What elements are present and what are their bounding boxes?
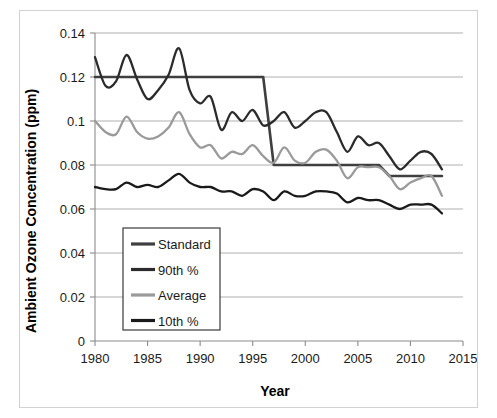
y-axis-tick-labels: 00.020.040.060.080.10.120.14 bbox=[60, 26, 85, 349]
chart-legend[interactable]: Standard90th %Average10th % bbox=[123, 228, 220, 330]
y-tick-label: 0.04 bbox=[60, 246, 85, 261]
x-tick-label: 2005 bbox=[343, 351, 372, 366]
legend-label-10th[interactable]: 10th % bbox=[158, 314, 199, 329]
ozone-line-chart: 00.020.040.060.080.10.120.14 19801985199… bbox=[20, 11, 477, 407]
series-line-90th bbox=[95, 48, 442, 169]
x-axis-tick-labels: 19801985199019952000200520102015 bbox=[81, 351, 477, 366]
y-tick-label: 0 bbox=[78, 334, 85, 349]
y-tick-label: 0.14 bbox=[60, 26, 85, 41]
data-series bbox=[95, 48, 442, 213]
legend-label-average[interactable]: Average bbox=[158, 288, 206, 303]
x-tick-label: 1985 bbox=[133, 351, 162, 366]
chart-frame: 00.020.040.060.080.10.120.14 19801985199… bbox=[19, 10, 478, 408]
clipped-header-text bbox=[0, 0, 497, 7]
x-tick-label: 2015 bbox=[449, 351, 477, 366]
x-tick-label: 1995 bbox=[238, 351, 267, 366]
legend-label-standard[interactable]: Standard bbox=[158, 237, 211, 252]
x-tick-label: 1980 bbox=[81, 351, 110, 366]
y-tick-label: 0.12 bbox=[60, 70, 85, 85]
figure-root: 00.020.040.060.080.10.120.14 19801985199… bbox=[0, 0, 497, 418]
x-tick-label: 1990 bbox=[186, 351, 215, 366]
x-tick-label: 2000 bbox=[291, 351, 320, 366]
x-tick-label: 2010 bbox=[396, 351, 425, 366]
y-axis-title: Ambient Ozone Concentration (ppm) bbox=[23, 89, 39, 333]
y-tick-label: 0.08 bbox=[60, 158, 85, 173]
legend-label-90th[interactable]: 90th % bbox=[158, 263, 199, 278]
y-tick-label: 0.06 bbox=[60, 202, 85, 217]
series-line-10th bbox=[95, 174, 442, 214]
x-axis-title: Year bbox=[260, 383, 290, 399]
y-tick-label: 0.02 bbox=[60, 290, 85, 305]
y-tick-label: 0.1 bbox=[67, 114, 85, 129]
